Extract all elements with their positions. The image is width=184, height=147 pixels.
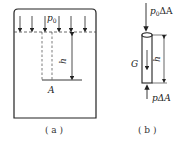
height-label: h xyxy=(152,56,162,62)
panel-a: p0 A h ( a ) xyxy=(14,9,96,135)
top-force-label: p0ΔA xyxy=(150,6,173,17)
caption-b: ( b ) xyxy=(138,125,157,135)
fluid-pressure-diagram: p0 A h ( a ) p0ΔA G h pΔA ( b ) xyxy=(0,0,184,147)
panel-b: p0ΔA G h pΔA ( b ) xyxy=(131,3,173,135)
bottom-force-label: pΔA xyxy=(152,93,171,103)
area-label: A xyxy=(47,85,55,95)
container xyxy=(14,9,96,118)
weight-label: G xyxy=(131,59,138,69)
surface-pressure-label: p0 xyxy=(47,13,57,24)
depth-label: h xyxy=(58,58,68,64)
caption-a: ( a ) xyxy=(45,125,63,135)
